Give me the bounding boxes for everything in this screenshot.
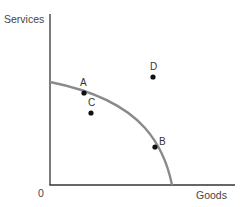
point-c-marker: [88, 110, 93, 115]
y-axis-label: Services: [4, 13, 44, 25]
ppf-chart: A B C D Services Goods 0: [0, 0, 241, 207]
point-d-marker: [150, 74, 155, 79]
point-b-label: B: [159, 136, 166, 147]
x-axis-label: Goods: [196, 189, 227, 201]
point-a-marker: [81, 90, 86, 95]
point-a-label: A: [80, 77, 87, 88]
point-c-label: C: [88, 97, 95, 108]
point-d-label: D: [150, 61, 157, 72]
ppf-curve: [50, 82, 172, 185]
origin-label: 0: [38, 187, 44, 199]
point-b-marker: [152, 144, 157, 149]
